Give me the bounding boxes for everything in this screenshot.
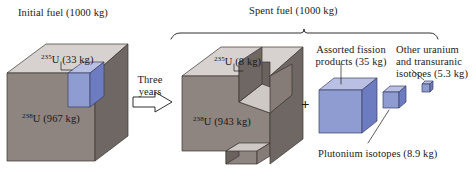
transition-label: Three years (128, 74, 172, 98)
label-fission-products: Assorted fission products (35 kg) (310, 44, 392, 68)
label-u238-initial: 238U (967 kg) (22, 113, 80, 125)
u235-blue-cube-initial (68, 62, 104, 107)
u235-superscript-spent: 235 (214, 55, 225, 63)
nuclear-fuel-cycle-diagram: Initial fuel (1000 kg) Spent fuel (1000 … (0, 0, 474, 190)
u235-superscript-initial: 235 (41, 53, 52, 61)
fission-products-cube (319, 64, 377, 133)
u238-superscript-spent: 238 (193, 115, 204, 123)
u238-superscript-initial: 238 (22, 112, 33, 120)
spent-fuel-bracket (171, 29, 438, 39)
u235-text-initial: U (33 kg) (52, 54, 94, 65)
u238-text-spent: U (943 kg) (204, 116, 251, 127)
u235-text-spent: U (8 kg) (225, 56, 261, 67)
transition-line-1: Three (128, 74, 172, 86)
transition-line-2: years (128, 86, 172, 98)
plus-sign: + (301, 98, 310, 110)
label-plutonium-isotopes: Plutonium isotopes (8.9 kg) (318, 148, 437, 160)
diagram-graphics-layer (0, 0, 474, 190)
initial-fuel-title: Initial fuel (1000 kg) (18, 7, 108, 19)
label-u235-spent: 235U (8 kg) (214, 56, 261, 68)
spent-fuel-title: Spent fuel (1000 kg) (249, 5, 338, 17)
u238-text-initial: U (967 kg) (33, 113, 80, 124)
label-other-isotopes: Other uranium and transuranic isotopes (… (396, 44, 474, 80)
label-u238-spent: 238U (943 kg) (193, 116, 251, 128)
label-u235-initial: 235U (33 kg) (41, 54, 94, 66)
